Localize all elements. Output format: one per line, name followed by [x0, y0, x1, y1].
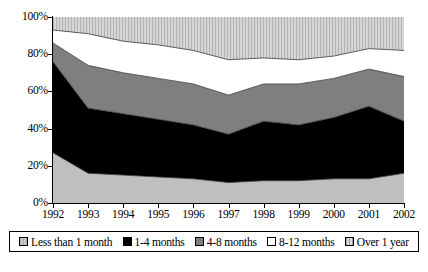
x-tick-label: 1999 [279, 208, 319, 221]
legend-label: 4-8 months [207, 236, 257, 248]
x-tick-label: 1992 [33, 208, 73, 221]
legend-item[interactable]: 8-12 months [267, 236, 335, 248]
legend-swatch-icon [19, 237, 28, 246]
stacked-area-svg [53, 17, 404, 203]
chart-legend: Less than 1 month1-4 months4-8 months8-1… [9, 231, 419, 252]
x-tick-mark [369, 203, 370, 208]
x-tick-label: 1993 [68, 208, 108, 221]
y-tick-label: 80% [4, 48, 48, 59]
x-tick-mark [404, 203, 405, 208]
y-tick-mark [48, 166, 53, 167]
x-tick-mark [88, 203, 89, 208]
x-tick-mark [53, 203, 54, 208]
legend-swatch-icon [267, 237, 276, 246]
x-tick-label: 1996 [173, 208, 213, 221]
x-tick-label: 2000 [314, 208, 354, 221]
x-tick-mark [299, 203, 300, 208]
legend-label: 1-4 months [135, 236, 185, 248]
y-axis-line [52, 16, 53, 204]
y-tick-mark [48, 17, 53, 18]
x-tick-mark [229, 203, 230, 208]
legend-item[interactable]: 4-8 months [195, 236, 257, 248]
legend-swatch-icon [123, 237, 132, 246]
x-tick-label: 1994 [103, 208, 143, 221]
chart-container: 0%20%40%60%80%100% 199219931994199519961… [0, 0, 428, 272]
y-tick-mark [48, 91, 53, 92]
x-tick-mark [193, 203, 194, 208]
y-tick-label: 20% [4, 160, 48, 171]
legend-label: Over 1 year [357, 236, 409, 248]
y-tick-mark [48, 129, 53, 130]
x-tick-label: 1998 [244, 208, 284, 221]
legend-item[interactable]: Less than 1 month [19, 236, 112, 248]
x-tick-mark [264, 203, 265, 208]
legend-label: Less than 1 month [31, 236, 112, 248]
legend-swatch-icon [195, 237, 204, 246]
x-tick-mark [123, 203, 124, 208]
x-tick-label: 2002 [384, 208, 424, 221]
x-axis-labels: 1992199319941995199619971998199920002001… [0, 208, 428, 224]
area-bands [53, 17, 404, 203]
plot-area [53, 17, 404, 203]
x-tick-mark [158, 203, 159, 208]
legend-item[interactable]: 1-4 months [123, 236, 185, 248]
y-tick-label: 40% [4, 123, 48, 134]
legend-label: 8-12 months [279, 236, 335, 248]
legend-swatch-icon [345, 237, 354, 246]
x-tick-label: 1997 [209, 208, 249, 221]
x-tick-mark [334, 203, 335, 208]
y-tick-label: 60% [4, 85, 48, 96]
y-tick-label: 100% [4, 11, 48, 22]
y-tick-mark [48, 54, 53, 55]
x-tick-label: 2001 [349, 208, 389, 221]
legend-item[interactable]: Over 1 year [345, 236, 409, 248]
x-tick-label: 1995 [138, 208, 178, 221]
y-tick-label: 0% [4, 197, 48, 208]
